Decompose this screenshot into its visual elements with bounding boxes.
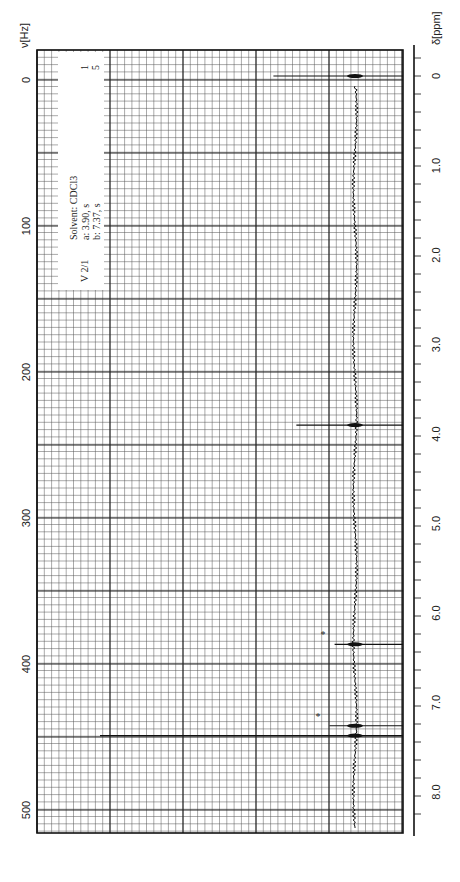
svg-text:1.0: 1.0 bbox=[430, 158, 442, 173]
svg-text:2.0: 2.0 bbox=[430, 247, 442, 262]
spectrum-trace: ** bbox=[100, 74, 403, 828]
annotation-box: V 2/1Solvent: CDCl3a: 3.90, sb: 7.37, s1… bbox=[58, 52, 104, 290]
svg-text:b: 7.37, s: b: 7.37, s bbox=[91, 203, 102, 240]
svg-text:8.0: 8.0 bbox=[430, 784, 442, 799]
svg-text:0: 0 bbox=[20, 77, 32, 83]
svg-text:ν[Hz]: ν[Hz] bbox=[18, 23, 30, 48]
svg-text:4.0: 4.0 bbox=[430, 426, 442, 441]
svg-text:100: 100 bbox=[20, 217, 32, 235]
svg-text:6.0: 6.0 bbox=[430, 605, 442, 620]
svg-text:7.0: 7.0 bbox=[430, 695, 442, 710]
svg-text:300: 300 bbox=[20, 509, 32, 527]
svg-text:*: * bbox=[316, 711, 321, 722]
svg-text:5: 5 bbox=[90, 65, 101, 70]
nmr-spectrum-chart: ν[Hz]0100200300400500δ[ppm]01.02.03.04.0… bbox=[0, 0, 460, 882]
svg-text:δ[ppm]: δ[ppm] bbox=[430, 11, 442, 45]
svg-text:400: 400 bbox=[20, 655, 32, 673]
svg-text:3.0: 3.0 bbox=[430, 337, 442, 352]
svg-text:1: 1 bbox=[79, 65, 90, 70]
svg-text:200: 200 bbox=[20, 363, 32, 381]
svg-text:5.0: 5.0 bbox=[430, 516, 442, 531]
svg-text:*: * bbox=[321, 629, 326, 640]
svg-text:500: 500 bbox=[20, 801, 32, 819]
svg-text:0: 0 bbox=[430, 73, 442, 79]
svg-text:Solvent: CDCl3: Solvent: CDCl3 bbox=[68, 176, 79, 240]
svg-text:a: 3.90, s: a: 3.90, s bbox=[80, 204, 91, 240]
sample-id: V 2/1 bbox=[79, 260, 90, 282]
